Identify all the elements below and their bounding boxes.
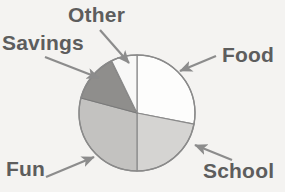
leader-arrow-savings [45, 57, 99, 78]
pie-label-savings: Savings [2, 32, 84, 54]
pie-slice-food[interactable] [137, 55, 195, 124]
leader-arrow-food [180, 56, 216, 71]
pie-label-other: Other [68, 4, 125, 26]
leader-arrow-school [195, 145, 232, 160]
pie-label-fun: Fun [6, 158, 45, 180]
pie-chart-page: Other Savings Food Fun School [0, 0, 285, 192]
leader-arrow-fun [46, 157, 94, 177]
pie-label-school: School [203, 160, 274, 182]
leader-arrow-other [100, 30, 129, 63]
pie-slice-group [79, 55, 195, 171]
pie-label-food: Food [222, 44, 274, 66]
